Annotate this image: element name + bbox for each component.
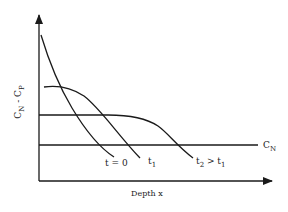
cn-line-label: CN <box>263 141 276 153</box>
curve-t2 <box>39 115 193 158</box>
x-axis-label: Depth x <box>131 190 163 198</box>
diagram-canvas <box>0 0 288 212</box>
diffusion-profile-diagram: CN - CP t = 0 t1 t2 > t1 CN Depth x <box>0 0 288 212</box>
curve-t1 <box>44 86 140 158</box>
curve-t2-label: t2 > t1 <box>196 157 225 169</box>
y-axis-label: CN - CP <box>13 85 26 118</box>
curve-t0 <box>41 35 114 157</box>
curve-t1-label: t1 <box>148 157 156 169</box>
curve-t0-label: t = 0 <box>105 159 128 168</box>
